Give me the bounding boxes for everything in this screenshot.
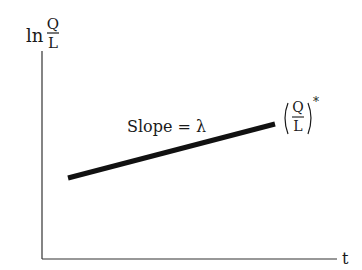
y-label-denominator: L [48, 34, 58, 52]
end-label-numerator: Q [292, 99, 303, 115]
y-label-numerator: Q [47, 15, 59, 33]
growth-diagram: ln Q L t Slope = λ Q L * [0, 0, 362, 270]
end-label-superscript: * [313, 95, 319, 109]
x-axis-label: t [342, 249, 349, 268]
y-axis-label: ln Q L [26, 15, 59, 52]
left-paren [285, 103, 288, 134]
right-paren [308, 103, 311, 134]
y-label-prefix: ln [26, 25, 44, 46]
slope-label: Slope = λ [127, 117, 206, 136]
end-label: Q L * [285, 95, 319, 134]
end-label-denominator: L [293, 118, 302, 134]
